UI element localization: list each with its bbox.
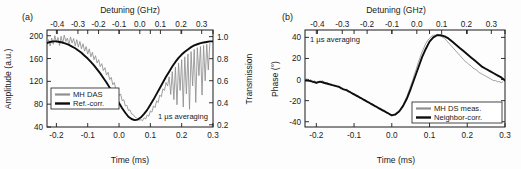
- top-tick-label: 0.2: [461, 20, 473, 29]
- panel-a-right-axis-title: Transmission: [244, 53, 254, 104]
- y-tick-label: 40: [292, 33, 302, 42]
- averaging-note: 1 µs averaging: [310, 35, 360, 44]
- top-tick-label: 0.3: [196, 20, 208, 29]
- y2-tick-label: 0.6: [217, 77, 229, 86]
- y2-tick-label: 0.4: [217, 99, 229, 108]
- legend-label: Neighbor-corr.: [434, 113, 482, 122]
- top-tick-label: 0.1: [155, 20, 167, 29]
- y-tick-label: 20: [292, 54, 302, 63]
- figure-container: (a) Detuning (GHz) Time (ms) Amplitude (…: [0, 0, 521, 169]
- y2-tick-label: 0.8: [217, 55, 229, 64]
- panel-a-left-axis-title: Amplitude (a.u.): [3, 49, 13, 110]
- panel-a-plot-area: -0.2-0.10.00.10.20.3-0.4-0.3-0.2-0.10.00…: [29, 20, 229, 140]
- top-tick-label: -0.2: [360, 20, 375, 29]
- legend-label: Ref.-corr.: [73, 99, 104, 108]
- top-tick-label: 0.0: [411, 20, 423, 29]
- x-tick-label: -0.2: [49, 131, 64, 140]
- y-tick-label: 200: [29, 32, 43, 41]
- x-tick-label: 0.1: [145, 131, 157, 140]
- y-tick-label: 80: [34, 100, 44, 109]
- top-tick-label: -0.4: [310, 20, 325, 29]
- panel-b-svg: (b) Detuning (GHz) Time (ms) Phase (°) -…: [260, 0, 521, 169]
- top-tick-label: -0.1: [385, 20, 400, 29]
- top-tick-label: -0.1: [112, 20, 127, 29]
- top-tick-label: 0.2: [175, 20, 187, 29]
- top-tick-label: 0.1: [436, 20, 448, 29]
- legend-label: MH DAS: [73, 90, 103, 99]
- panel-a-svg: (a) Detuning (GHz) Time (ms) Amplitude (…: [0, 0, 261, 169]
- y2-tick-label: 1.0: [217, 33, 229, 42]
- x-tick-label: -0.2: [309, 131, 324, 140]
- x-tick-label: 0.3: [207, 131, 219, 140]
- panel-b-phase: (b) Detuning (GHz) Time (ms) Phase (°) -…: [260, 0, 521, 169]
- y-tick-label: 120: [29, 77, 43, 86]
- y-tick-label: 40: [34, 123, 44, 132]
- x-tick-label: 0.0: [386, 131, 398, 140]
- averaging-note: 1 µs averaging: [158, 112, 208, 121]
- panel-b-top-axis-title: Detuning (GHz): [366, 5, 426, 15]
- x-tick-label: -0.1: [347, 131, 362, 140]
- y-tick-label: 0: [296, 76, 301, 85]
- panel-a-bottom-axis-title: Time (ms): [111, 155, 149, 165]
- x-tick-label: 0.3: [499, 131, 511, 140]
- panel-b-plot-area: -0.2-0.10.00.10.20.3-0.4-0.3-0.2-0.10.00…: [289, 20, 511, 140]
- y-tick-label: 160: [29, 55, 43, 64]
- top-tick-label: -0.2: [91, 20, 106, 29]
- x-tick-label: 0.1: [424, 131, 436, 140]
- top-tick-label: 0.0: [134, 20, 146, 29]
- top-tick-label: 0.3: [486, 20, 498, 29]
- panel-b-left-axis-title: Phase (°): [270, 61, 280, 97]
- y-tick-label: -40: [289, 118, 301, 127]
- top-tick-label: -0.4: [50, 20, 65, 29]
- y-tick-label: -20: [289, 97, 301, 106]
- panel-a-amplitude: (a) Detuning (GHz) Time (ms) Amplitude (…: [0, 0, 261, 169]
- x-tick-label: -0.1: [81, 131, 96, 140]
- x-tick-label: 0.2: [462, 131, 474, 140]
- panel-b-bottom-axis-title: Time (ms): [377, 155, 415, 165]
- x-tick-label: 0.2: [176, 131, 188, 140]
- y2-tick-label: 0.2: [217, 121, 229, 130]
- legend-label: MH DS meas.: [434, 104, 481, 113]
- panel-b-label: (b): [282, 12, 293, 22]
- top-tick-label: -0.3: [71, 20, 86, 29]
- x-tick-label: 0.0: [113, 131, 125, 140]
- panel-a-top-axis-title: Detuning (GHz): [100, 5, 160, 15]
- panel-a-label: (a): [22, 12, 33, 22]
- top-tick-label: -0.3: [335, 20, 350, 29]
